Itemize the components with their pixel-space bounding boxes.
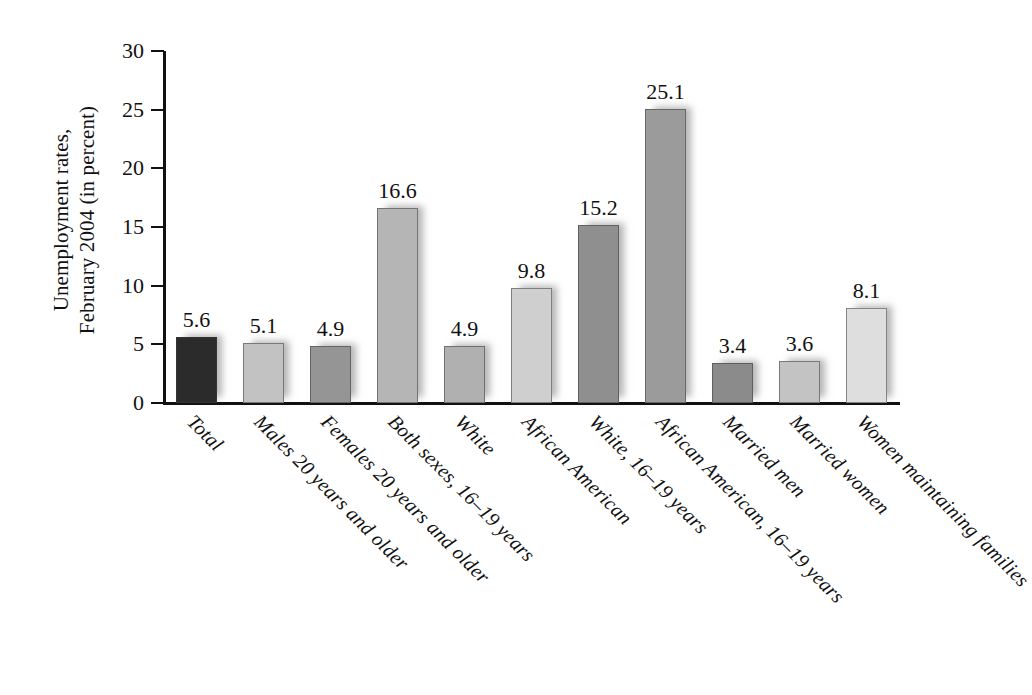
y-axis-tick-label: 10 [104, 275, 144, 297]
bar-group: 5.6 [176, 51, 216, 403]
bar-value-label: 5.1 [250, 315, 278, 337]
bar-group: 3.4 [712, 51, 752, 403]
bar-value-label: 4.9 [451, 318, 479, 340]
bar [846, 308, 886, 403]
bar-group: 25.1 [645, 51, 685, 403]
bar [511, 288, 551, 403]
x-axis-label: Total [184, 411, 227, 454]
bar-group: 16.6 [377, 51, 417, 403]
x-axis-label: White, 16–19 years [586, 411, 712, 537]
bar-value-label: 16.6 [378, 180, 417, 202]
bar-group: 15.2 [578, 51, 618, 403]
y-axis-tick-label: 20 [104, 157, 144, 179]
bar [712, 363, 752, 403]
bar [243, 343, 283, 403]
bar [377, 208, 417, 403]
bar [176, 337, 216, 403]
bar-group: 5.1 [243, 51, 283, 403]
bar [310, 346, 350, 403]
bar [444, 346, 484, 403]
bar-value-label: 3.6 [786, 333, 814, 355]
plot-area: 5.65.14.916.64.99.815.225.13.43.68.1 [163, 51, 900, 403]
y-axis-tick-label: 15 [104, 216, 144, 238]
bar-group: 9.8 [511, 51, 551, 403]
bar-value-label: 9.8 [518, 260, 546, 282]
bar [645, 109, 685, 404]
y-axis-title-line-2: February 2004 (in percent) [75, 106, 101, 334]
bar-group: 4.9 [444, 51, 484, 403]
bar-group: 3.6 [779, 51, 819, 403]
bar [779, 361, 819, 403]
bar [578, 225, 618, 403]
y-axis-tick-label: 0 [104, 392, 144, 414]
y-axis-title-line-1: Unemployment rates, [49, 106, 75, 334]
bar-value-label: 3.4 [719, 335, 747, 357]
bar-value-label: 4.9 [317, 318, 345, 340]
y-axis-tick-label: 25 [104, 99, 144, 121]
y-axis-tick-label: 5 [104, 333, 144, 355]
bar-value-label: 15.2 [579, 197, 618, 219]
x-axis-label: White [452, 411, 500, 459]
bar-value-label: 5.6 [183, 309, 211, 331]
bar-value-label: 25.1 [646, 81, 685, 103]
bar-group: 8.1 [846, 51, 886, 403]
y-axis-tick-label: 30 [104, 40, 144, 62]
bar-group: 4.9 [310, 51, 350, 403]
bar-value-label: 8.1 [853, 280, 881, 302]
